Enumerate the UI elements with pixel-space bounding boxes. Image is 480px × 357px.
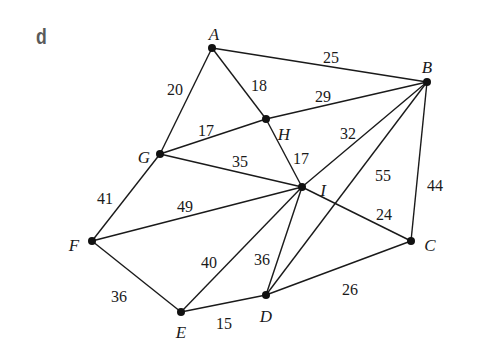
edge-weight-g-h: 17	[198, 122, 214, 139]
edge-f-i	[92, 187, 302, 241]
edge-weight-d-i: 36	[254, 251, 270, 268]
node-g	[156, 150, 164, 158]
node-label-i: I	[319, 181, 327, 200]
edge-g-i	[160, 154, 302, 187]
edge-f-e	[92, 241, 181, 312]
edge-weight-e-d: 15	[216, 315, 232, 332]
edge-c-b	[411, 82, 427, 241]
edge-weight-h-b: 29	[315, 88, 331, 105]
node-a	[208, 44, 216, 52]
node-label-b: B	[422, 58, 433, 77]
edge-weight-a-h: 18	[251, 77, 267, 94]
edge-d-i	[266, 187, 302, 295]
edge-weight-g-f: 41	[97, 190, 113, 207]
edge-weight-f-e: 36	[111, 288, 127, 305]
edge-e-d	[181, 295, 266, 312]
node-i	[298, 183, 306, 191]
node-label-h: H	[277, 125, 292, 144]
edge-weight-a-g: 20	[167, 81, 183, 98]
edge-weight-f-i: 49	[177, 198, 193, 215]
edge-weight-c-b: 44	[427, 177, 443, 194]
node-e	[177, 308, 185, 316]
node-label-e: E	[175, 323, 187, 342]
node-label-c: C	[424, 236, 436, 255]
edge-weight-e-i: 40	[201, 254, 217, 271]
edge-weight-i-b: 32	[340, 125, 356, 142]
node-label-g: G	[138, 148, 150, 167]
edge-i-c	[302, 187, 411, 241]
node-f	[88, 237, 96, 245]
edge-d-c	[266, 241, 411, 295]
edge-a-b	[212, 48, 427, 82]
node-d	[262, 291, 270, 299]
node-c	[407, 237, 415, 245]
node-b	[423, 78, 431, 86]
edge-weight-g-i: 35	[232, 153, 248, 170]
edge-weight-a-b: 25	[323, 49, 339, 66]
node-h	[262, 115, 270, 123]
weighted-graph: 252018291735173255442441494036361526 ABH…	[0, 0, 480, 357]
edge-weight-d-b: 55	[375, 167, 391, 184]
edge-e-i	[181, 187, 302, 312]
node-label-f: F	[68, 236, 80, 255]
node-label-d: D	[259, 307, 273, 326]
node-label-a: A	[208, 25, 220, 44]
edge-weight-h-i: 17	[293, 150, 309, 167]
edge-weight-d-c: 26	[342, 281, 358, 298]
edge-weight-i-c: 24	[376, 206, 392, 223]
